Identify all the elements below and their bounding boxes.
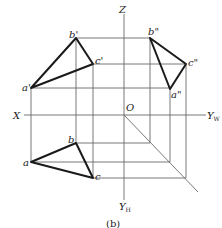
top-view-triangle — [31, 143, 93, 178]
yh-axis-label: YH — [119, 201, 131, 213]
x-axis-label: X — [12, 110, 21, 121]
label-c-double-prime: c" — [188, 57, 198, 68]
origin-label: O — [126, 102, 134, 113]
label-b: b — [68, 134, 74, 145]
front-view-triangle — [31, 38, 93, 88]
label-c-prime: c' — [95, 55, 103, 66]
label-b-double-prime: b" — [148, 26, 159, 37]
orthographic-projection-diagram: Z X O YW YH a' b' c' b" c" a" a b c (b) — [0, 0, 222, 228]
yw-axis-label: YW — [207, 110, 221, 122]
label-c: c — [95, 171, 101, 182]
label-a-prime: a' — [22, 82, 31, 93]
label-a-double-prime: a" — [171, 89, 182, 100]
label-a: a — [23, 157, 29, 168]
z-axis-label: Z — [118, 4, 127, 15]
45-degree-line — [124, 115, 198, 192]
figure-caption: (b) — [106, 218, 120, 228]
label-b-prime: b' — [69, 29, 78, 40]
side-view-triangle — [150, 38, 186, 89]
